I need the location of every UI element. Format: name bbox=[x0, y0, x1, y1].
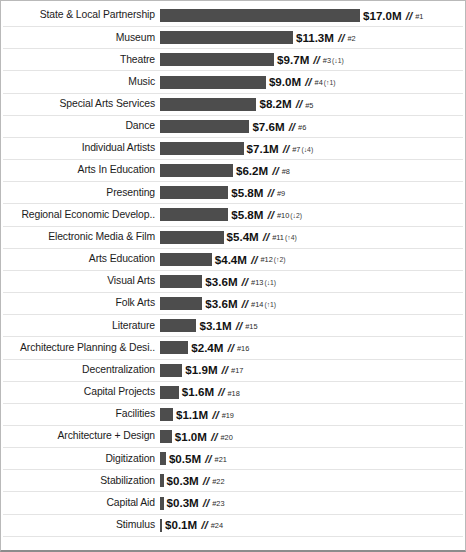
rank-separator: // bbox=[201, 453, 214, 465]
value-bar[interactable] bbox=[160, 98, 256, 111]
rank-number: #5 bbox=[305, 101, 313, 110]
rank-number: #12 bbox=[260, 255, 272, 264]
bar-container: $7.6M//#6 bbox=[160, 116, 463, 137]
bar-container: $3.1M//#15 bbox=[160, 315, 463, 336]
value-label: $8.2M bbox=[256, 98, 291, 110]
rank-separator: // bbox=[238, 276, 251, 288]
category-label: Architecture + Design bbox=[3, 431, 160, 441]
rank-number: #24 bbox=[211, 521, 223, 530]
category-label: Electronic Media & Film bbox=[3, 232, 160, 242]
value-bar[interactable] bbox=[160, 386, 179, 399]
rank-number: #10 bbox=[277, 211, 289, 220]
rank-separator: // bbox=[247, 254, 260, 266]
bar-row[interactable]: Special Arts Services$8.2M//#5 bbox=[3, 94, 463, 116]
value-bar[interactable] bbox=[160, 142, 244, 155]
value-bar[interactable] bbox=[160, 275, 202, 288]
bar-row[interactable]: Capital Aid$0.3M//#23 bbox=[3, 492, 463, 514]
category-label: Special Arts Services bbox=[3, 99, 160, 109]
bar-row[interactable]: Literature$3.1M//#15 bbox=[3, 315, 463, 337]
bar-row[interactable]: Museum$11.3M//#2 bbox=[3, 27, 463, 49]
rank-label: #19 bbox=[222, 412, 234, 419]
rank-number: #3 bbox=[323, 56, 331, 65]
value-bar[interactable] bbox=[160, 120, 249, 133]
value-bar[interactable] bbox=[160, 208, 228, 221]
bar-row[interactable]: Stabilization$0.3M//#22 bbox=[3, 470, 463, 492]
value-bar[interactable] bbox=[160, 319, 196, 332]
bar-container: $1.9M//#17 bbox=[160, 360, 463, 381]
rank-label: #9 bbox=[277, 190, 285, 197]
bar-row[interactable]: Theatre$9.7M//#3(↓1) bbox=[3, 49, 463, 71]
bar-container: $0.5M//#21 bbox=[160, 448, 463, 469]
value-bar[interactable] bbox=[160, 31, 293, 44]
category-label: State & Local Partnership bbox=[3, 10, 160, 20]
bar-row[interactable]: Music$9.0M//#4(↑1) bbox=[3, 71, 463, 93]
rank-number: #4 bbox=[315, 78, 323, 87]
rank-delta: (↑1) bbox=[323, 79, 336, 86]
rank-number: #15 bbox=[245, 322, 257, 331]
rank-delta: (↓1) bbox=[331, 57, 344, 64]
value-label: $2.4M bbox=[188, 342, 223, 354]
bar-row[interactable]: Presenting$5.8M//#9 bbox=[3, 182, 463, 204]
bar-container: $2.4M//#16 bbox=[160, 337, 463, 358]
rank-separator: // bbox=[334, 32, 347, 44]
category-label: Stimulus bbox=[3, 520, 160, 530]
bar-row[interactable]: Architecture + Design$1.0M//#20 bbox=[3, 426, 463, 448]
value-label: $1.9M bbox=[182, 364, 217, 376]
category-label: Visual Arts bbox=[3, 276, 160, 286]
rank-separator: // bbox=[208, 409, 221, 421]
value-bar[interactable] bbox=[160, 341, 188, 354]
category-label: Music bbox=[3, 77, 160, 87]
bar-container: $1.0M//#20 bbox=[160, 426, 463, 447]
bar-row[interactable]: Arts In Education$6.2M//#8 bbox=[3, 160, 463, 182]
rank-label: #21 bbox=[215, 456, 227, 463]
bar-row[interactable]: Arts Education$4.4M//#12(↑2) bbox=[3, 249, 463, 271]
bar-row[interactable]: Visual Arts$3.6M//#13(↓1) bbox=[3, 271, 463, 293]
bar-row[interactable]: Decentralization$1.9M//#17 bbox=[3, 360, 463, 382]
rank-number: #19 bbox=[222, 411, 234, 420]
value-label: $4.4M bbox=[212, 254, 247, 266]
rank-label: #23 bbox=[212, 500, 224, 507]
rank-separator: // bbox=[292, 98, 305, 110]
bar-row[interactable]: Regional Economic Develop..$5.8M//#10(↓2… bbox=[3, 204, 463, 226]
bar-container: $1.6M//#18 bbox=[160, 382, 463, 403]
category-label: Architecture Planning & Desi.. bbox=[3, 343, 160, 353]
value-bar[interactable] bbox=[160, 408, 173, 421]
value-bar[interactable] bbox=[160, 231, 224, 244]
rank-delta: (↑1) bbox=[263, 301, 276, 308]
value-bar[interactable] bbox=[160, 53, 274, 66]
bar-container: $17.0M//#1 bbox=[160, 5, 463, 26]
value-bar[interactable] bbox=[160, 297, 202, 310]
value-label: $3.6M bbox=[202, 276, 237, 288]
bar-row[interactable]: Folk Arts$3.6M//#14(↑1) bbox=[3, 293, 463, 315]
bar-row[interactable]: Electronic Media & Film$5.4M//#11(↑4) bbox=[3, 227, 463, 249]
rank-label: #6 bbox=[298, 124, 306, 131]
bar-container: $7.1M//#7(↓4) bbox=[160, 138, 463, 159]
bar-row[interactable]: Digitization$0.5M//#21 bbox=[3, 448, 463, 470]
rank-delta: (↓4) bbox=[300, 146, 313, 153]
bar-row[interactable]: Facilities$1.1M//#19 bbox=[3, 404, 463, 426]
rank-separator: // bbox=[199, 475, 212, 487]
value-bar[interactable] bbox=[160, 76, 266, 89]
value-bar[interactable] bbox=[160, 9, 360, 22]
bar-row[interactable]: Architecture Planning & Desi..$2.4M//#16 bbox=[3, 337, 463, 359]
bar-row[interactable]: Individual Artists$7.1M//#7(↓4) bbox=[3, 138, 463, 160]
category-label: Stabilization bbox=[3, 476, 160, 486]
bar-row[interactable]: State & Local Partnership$17.0M//#1 bbox=[3, 5, 463, 27]
value-label: $17.0M bbox=[360, 10, 402, 22]
rank-number: #11 bbox=[272, 233, 284, 242]
value-bar[interactable] bbox=[160, 364, 182, 377]
category-label: Arts In Education bbox=[3, 165, 160, 175]
value-bar[interactable] bbox=[160, 253, 212, 266]
value-bar[interactable] bbox=[160, 186, 228, 199]
rank-separator: // bbox=[199, 497, 212, 509]
bar-row[interactable]: Capital Projects$1.6M//#18 bbox=[3, 382, 463, 404]
rank-label: #8 bbox=[282, 168, 290, 175]
value-label: $5.8M bbox=[228, 209, 263, 221]
bar-row[interactable]: Dance$7.6M//#6 bbox=[3, 116, 463, 138]
value-bar[interactable] bbox=[160, 430, 172, 443]
rank-label: #12(↑2) bbox=[260, 256, 285, 264]
category-label: Arts Education bbox=[3, 254, 160, 264]
bar-row[interactable]: Stimulus$0.1M//#24 bbox=[3, 515, 463, 537]
value-bar[interactable] bbox=[160, 164, 233, 177]
rank-label: #13(↓1) bbox=[251, 279, 276, 287]
